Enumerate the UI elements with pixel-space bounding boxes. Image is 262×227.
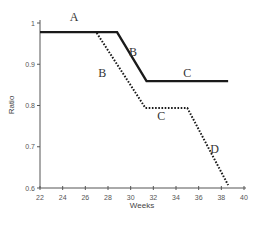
axes: [40, 20, 246, 188]
y-tick-label: 0.7: [25, 143, 35, 150]
chart: 0.60.70.80.91 22242628303234363840 Weeks…: [0, 0, 262, 227]
x-tick-label: 22: [36, 194, 44, 201]
x-tick-label: 34: [172, 194, 180, 201]
x-tick-label: 28: [104, 194, 112, 201]
x-tick-label: 32: [149, 194, 157, 201]
x-tick-label: 30: [127, 194, 135, 201]
x-axis-title: Weeks: [130, 201, 154, 210]
x-tick-label: 38: [217, 194, 225, 201]
segment-label: A: [70, 10, 79, 24]
y-axis-title: Ratio: [7, 95, 16, 114]
segment-label: B: [129, 45, 137, 59]
x-tick-label: 36: [195, 194, 203, 201]
segment-label: D: [210, 142, 219, 156]
segment-label: C: [157, 109, 165, 123]
y-tick-label: 0.6: [25, 185, 35, 192]
x-tick-label: 26: [81, 194, 89, 201]
y-ticks: 0.60.70.80.91: [25, 20, 40, 192]
x-tick-label: 40: [240, 194, 248, 201]
y-tick-label: 1: [31, 20, 35, 27]
y-tick-label: 0.8: [25, 102, 35, 109]
x-tick-label: 24: [59, 194, 67, 201]
segment-label: B: [98, 66, 106, 80]
y-tick-label: 0.9: [25, 61, 35, 68]
segment-label: C: [183, 66, 191, 80]
